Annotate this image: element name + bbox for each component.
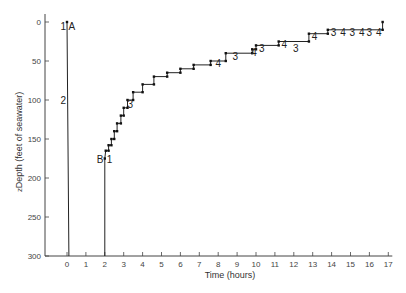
x-tick-label: 0 [65,260,70,269]
annotation-label: 4 [251,47,257,58]
data-point [113,130,115,132]
depth-time-chart: 0501001502002503000123456789101112131415… [0,0,406,293]
data-point [116,130,118,132]
data-point [209,64,211,66]
x-tick-label: 4 [140,260,145,269]
data-point [225,52,227,54]
data-point [120,122,122,124]
x-tick-label: 12 [289,260,298,269]
x-tick-label: 2 [103,260,108,269]
annotation-label: A [68,21,75,32]
data-point [120,114,122,116]
data-point [179,72,181,74]
annotation-label: 3 [367,27,373,38]
data-point [107,150,109,152]
annotation-label: 1 [60,21,66,32]
y-axis-label: Depth (feet of seawater) [14,92,24,189]
data-point [192,64,194,66]
y-tick-label: 50 [32,57,41,66]
data-point [179,68,181,70]
data-point [277,40,279,42]
y-axis-prefix: z [15,188,24,192]
annotation-label: 3 [293,43,299,54]
annotation-label: 4 [215,58,221,69]
x-tick-label: 1 [84,260,89,269]
x-tick-label: 8 [216,260,221,269]
x-tick-label: 16 [365,260,374,269]
data-point [107,144,109,146]
annotation-label: B [97,154,104,165]
y-tick-label: 100 [28,96,42,105]
series-line [67,22,69,256]
y-tick-label: 200 [28,174,42,183]
data-point [209,60,211,62]
data-point [116,122,118,124]
x-tick-label: 9 [235,260,240,269]
x-tick-label: 15 [346,260,355,269]
data-point [192,68,194,70]
data-point [110,144,112,146]
x-tick-label: 6 [178,260,183,269]
data-point [153,83,155,85]
data-point [327,33,329,35]
x-tick-label: 3 [121,260,126,269]
data-point [277,44,279,46]
x-axis-label: Time (hours) [205,270,256,280]
plot-area: 1A2B133443434343434 [60,21,383,256]
data-point [123,107,125,109]
x-tick-label: 5 [159,260,164,269]
annotation-label: 4 [376,27,382,38]
data-point [381,29,383,31]
data-point [104,157,106,159]
y-tick-label: 150 [28,135,42,144]
y-tick-label: 300 [28,252,42,261]
data-point [327,29,329,31]
data-point [153,75,155,77]
annotation-label: 3 [232,51,238,62]
data-point [141,91,143,93]
x-tick-label: 10 [252,260,261,269]
x-tick-label: 11 [271,260,280,269]
annotation-label: 4 [359,27,365,38]
y-tick-label: 0 [37,18,42,27]
x-tick-label: 17 [384,260,393,269]
data-point [308,33,310,35]
data-point [166,75,168,77]
data-point [308,40,310,42]
data-point [141,83,143,85]
x-tick-label: 13 [308,260,317,269]
annotation-label: 4 [312,31,318,42]
annotation-label: 4 [340,27,346,38]
data-point [113,138,115,140]
annotation-label: 2 [60,95,66,106]
annotation-label: 3 [259,43,265,54]
annotation-label: 3 [350,27,356,38]
data-point [166,72,168,74]
annotation-label: 1 [107,154,113,165]
annotation-label: 4 [282,39,288,50]
data-point [110,138,112,140]
data-point [225,60,227,62]
series-line [105,22,383,256]
data-point [123,114,125,116]
annotation-label: 3 [128,99,134,110]
data-point [132,91,134,93]
x-tick-label: 14 [327,260,336,269]
x-tick-label: 7 [197,260,202,269]
axes: 0501001502002503000123456789101112131415… [28,14,394,269]
annotation-label: 3 [331,27,337,38]
data-point [105,150,107,152]
y-tick-label: 250 [28,213,42,222]
data-point [381,21,383,23]
